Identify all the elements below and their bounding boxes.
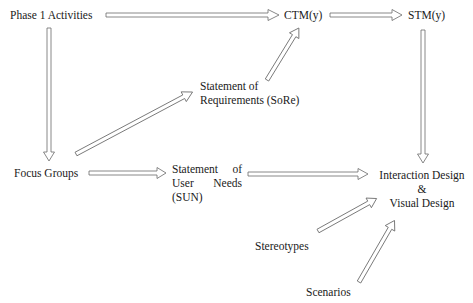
node-stereotypes: Stereotypes (255, 239, 309, 253)
arrows-layer: .arr { fill: #ffffff; stroke: #6a6a6a; s… (0, 0, 473, 303)
design-line-2: & (376, 182, 468, 196)
node-sun: Statement of User Needs (SUN) (172, 162, 242, 204)
arrow-stereotypes-to-design (315, 194, 379, 236)
arrow-phase1-to-ctm (106, 10, 279, 21)
arrow-focus-groups-to-sore (73, 87, 195, 159)
arrow-sore-to-ctm (262, 25, 303, 83)
design-line-1: Interaction Design (376, 168, 468, 182)
sun-word: Statement (172, 162, 218, 176)
sun-line-3: (SUN) (172, 190, 242, 204)
node-stm: STM(y) (408, 8, 445, 22)
sun-word: User (172, 176, 194, 190)
sun-line-1: Statement of (172, 162, 242, 176)
node-focus-groups: Focus Groups (14, 166, 78, 180)
arrow-ctm-to-stm (330, 10, 402, 21)
arrow-stm-to-design (418, 30, 429, 163)
node-phase1-activities: Phase 1 Activities (10, 8, 92, 22)
arrow-scenarios-to-design (354, 218, 399, 285)
sore-line-2: Requirements (SoRe) (200, 93, 299, 107)
node-sore: Statement of Requirements (SoRe) (200, 79, 299, 107)
node-scenarios: Scenarios (306, 285, 351, 299)
node-ctm: CTM(y) (284, 8, 322, 22)
node-interaction-visual-design: Interaction Design & Visual Design (376, 168, 468, 210)
sun-line-2: User Needs (172, 176, 242, 190)
design-line-3: Visual Design (376, 196, 468, 210)
sun-word: Needs (213, 176, 242, 190)
sore-line-1: Statement of (200, 79, 299, 93)
arrow-focus-groups-to-sun (89, 168, 166, 179)
arrow-sun-to-design (248, 169, 368, 180)
arrow-phase1-to-focus-groups (44, 28, 55, 161)
sun-word: of (232, 162, 242, 176)
